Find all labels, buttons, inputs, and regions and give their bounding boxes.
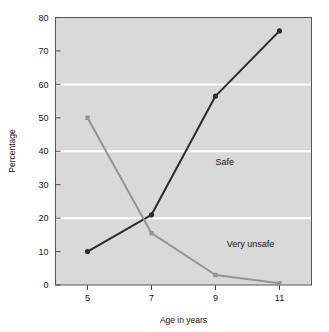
chart-container: 01020304050607080 57911 SafeVery unsafe … [0, 0, 329, 332]
data-point-marker [85, 249, 90, 254]
data-point-marker [277, 281, 281, 285]
x-axis-tick-label: 11 [275, 293, 284, 303]
y-axis-tick-labels: 01020304050607080 [38, 13, 48, 291]
y-axis-tick-label: 60 [38, 80, 48, 90]
data-point-marker [85, 116, 89, 120]
x-axis-tick-label: 9 [213, 293, 218, 303]
y-axis-tick-label: 50 [38, 113, 48, 123]
x-axis-tick-label: 7 [149, 293, 154, 303]
data-point-marker [277, 28, 282, 33]
y-axis-tick-label: 10 [38, 247, 48, 257]
x-axis-title: Age in years [160, 315, 207, 325]
data-point-marker [213, 93, 218, 98]
data-point-marker [149, 212, 154, 217]
y-axis-tick-label: 0 [43, 280, 48, 290]
data-point-marker [213, 273, 217, 277]
line-chart: 01020304050607080 57911 SafeVery unsafe … [0, 0, 329, 332]
x-axis-tick-label: 5 [85, 293, 90, 303]
series-label-safe: Safe [216, 157, 235, 167]
y-axis-title: Percentage [7, 129, 17, 173]
y-axis-tick-label: 40 [38, 146, 48, 156]
y-axis-tick-label: 70 [38, 46, 48, 56]
y-axis-tick-label: 30 [38, 180, 48, 190]
y-axis-tick-label: 80 [38, 13, 48, 23]
y-axis-tick-label: 20 [38, 213, 48, 223]
data-point-marker [149, 231, 153, 235]
series-label-very-unsafe: Very unsafe [227, 239, 275, 249]
